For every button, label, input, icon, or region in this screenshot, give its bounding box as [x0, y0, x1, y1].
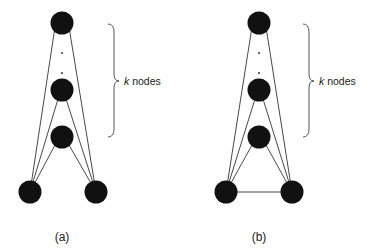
node-bottom-right — [281, 181, 304, 204]
caption-a: (a) — [55, 230, 70, 244]
node-middle — [51, 79, 74, 102]
ellipsis-dot — [61, 72, 63, 74]
edges-b — [226, 27, 292, 192]
caption-b: (b) — [252, 230, 267, 244]
brace-icon — [108, 24, 119, 137]
node-top — [248, 12, 271, 35]
node-middle — [248, 79, 271, 102]
ellipsis-dot — [258, 72, 260, 74]
brace-icon — [303, 24, 314, 137]
node-top — [51, 12, 74, 35]
edges-a — [30, 27, 96, 192]
node-lower — [248, 126, 271, 149]
node-lower — [51, 126, 74, 149]
ellipsis-dot — [61, 52, 63, 54]
node-bottom-left — [19, 181, 42, 204]
node-bottom-right — [85, 181, 108, 204]
brace-label: k nodes — [124, 75, 161, 87]
diagram-canvas: k nodes (a) k nodes (b) — [0, 0, 371, 252]
brace-label: k nodes — [319, 75, 356, 87]
graph-b: k nodes (b) — [215, 12, 356, 245]
node-bottom-left — [215, 181, 238, 204]
graph-a: k nodes (a) — [19, 12, 161, 245]
ellipsis-dot — [258, 52, 260, 54]
